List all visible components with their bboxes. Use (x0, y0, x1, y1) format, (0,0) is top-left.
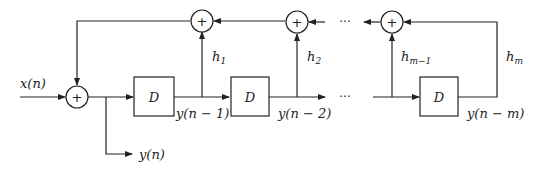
delay-output-label-m: y(n − m) (466, 106, 524, 121)
delay-output-label-2: y(n − 2) (277, 106, 331, 121)
gain-h2: h2 (307, 49, 321, 66)
top-adder-1-plus: + (197, 14, 208, 29)
gain-hm-1: hm−1 (401, 49, 431, 66)
delay-label-1: D (148, 90, 160, 105)
gain-h1: h1 (212, 49, 226, 66)
main-adder-plus: + (72, 90, 83, 105)
input-label: x(n) (20, 76, 46, 91)
top-adder-2-plus: + (292, 15, 303, 30)
gain-hm: hm (506, 49, 523, 66)
delay-output-label-1: y(n − 1) (175, 106, 229, 121)
output-branch (106, 97, 132, 154)
block-diagram: + + + + D D D ··· ··· x(n) y(n) y(n − 1)… (0, 0, 538, 172)
output-label: y(n) (138, 147, 165, 162)
feedback-to-main-adder (77, 21, 190, 85)
delay-label-m: D (433, 90, 445, 105)
ellipsis-bottom: ··· (339, 90, 350, 104)
top-adder-m-1-plus: + (387, 15, 398, 30)
delay-label-2: D (244, 90, 256, 105)
ellipsis-top: ··· (339, 15, 350, 29)
